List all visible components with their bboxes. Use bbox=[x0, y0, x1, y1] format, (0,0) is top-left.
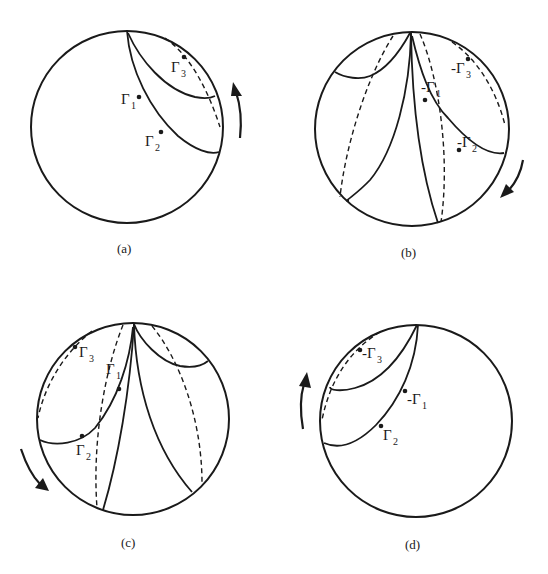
panel-d: -Γ 1 Γ 2 -Γ 3 (d) bbox=[299, 325, 512, 552]
middle-curve bbox=[411, 33, 438, 223]
panel-b: -Γ 1 -Γ 2 -Γ 3 (b) bbox=[315, 32, 523, 260]
caption-b: (b) bbox=[401, 245, 416, 260]
label-gamma3: Γ bbox=[79, 344, 88, 360]
panel-a: Γ 1 Γ 2 Γ 3 (a) bbox=[31, 31, 242, 256]
label-gamma1: -Γ bbox=[407, 391, 421, 407]
sphere-outline bbox=[31, 31, 223, 223]
caption-a: (a) bbox=[117, 241, 131, 256]
label-gamma3-sub: 3 bbox=[89, 353, 94, 364]
label-gamma2: Γ bbox=[76, 442, 85, 458]
right-hidden-arc bbox=[152, 326, 202, 483]
label-gamma3-sub: 3 bbox=[466, 69, 471, 80]
point-gamma2 bbox=[80, 434, 85, 439]
label-gamma1-sub: 1 bbox=[131, 100, 136, 111]
label-gamma2-sub: 2 bbox=[472, 143, 477, 154]
label-gamma1: -Γ bbox=[421, 79, 435, 95]
caption-c: (c) bbox=[121, 535, 135, 550]
point-gamma3 bbox=[182, 55, 187, 60]
label-gamma2-sub: 2 bbox=[155, 142, 160, 153]
label-gamma3: Γ bbox=[171, 59, 180, 75]
label-gamma2: Γ bbox=[383, 427, 392, 443]
sphere-outline bbox=[320, 325, 512, 517]
middle-hidden-arc bbox=[96, 325, 123, 508]
label-gamma1-sub: 1 bbox=[436, 88, 441, 99]
figure-canvas: Γ 1 Γ 2 Γ 3 (a) -Γ 1 -Γ 2 -Γ bbox=[0, 0, 548, 574]
point-gamma1 bbox=[137, 95, 142, 100]
point-gamma3 bbox=[73, 345, 78, 350]
sphere-outline bbox=[37, 323, 229, 515]
label-gamma1: Γ bbox=[106, 361, 115, 377]
panel-c: Γ 1 Γ 2 Γ 3 (c) bbox=[21, 323, 229, 550]
label-gamma1: Γ bbox=[121, 91, 130, 107]
label-gamma2-sub: 2 bbox=[393, 436, 398, 447]
rotation-arrow-icon bbox=[301, 384, 304, 429]
label-gamma1-sub: 1 bbox=[422, 400, 427, 411]
right-long-curve bbox=[134, 324, 192, 492]
label-gamma3-sub: 3 bbox=[377, 354, 382, 365]
point-gamma3 bbox=[466, 57, 471, 62]
label-gamma3-sub: 3 bbox=[181, 68, 186, 79]
rotation-arrow-icon bbox=[509, 160, 523, 190]
rotation-arrow-icon bbox=[236, 92, 241, 138]
label-gamma2-sub: 2 bbox=[86, 451, 91, 462]
label-gamma1-sub: 1 bbox=[116, 370, 121, 381]
label-gamma3: -Γ bbox=[451, 60, 465, 76]
caption-d: (d) bbox=[405, 537, 420, 552]
point-gamma1 bbox=[423, 98, 428, 103]
label-gamma3: -Γ bbox=[362, 345, 376, 361]
left-hidden-arc bbox=[340, 36, 393, 197]
curve-gamma1-gamma2 bbox=[127, 31, 219, 153]
label-gamma2: Γ bbox=[145, 133, 154, 149]
arrow-head-icon bbox=[299, 372, 311, 388]
point-gamma2 bbox=[159, 130, 164, 135]
curve-gamma1-gamma2 bbox=[324, 325, 418, 446]
middle-hidden-arc bbox=[420, 34, 444, 222]
rotation-arrow-icon bbox=[21, 449, 40, 484]
point-gamma1 bbox=[117, 387, 122, 392]
label-gamma2: -Γ bbox=[457, 134, 471, 150]
arrow-head-icon bbox=[231, 82, 242, 96]
